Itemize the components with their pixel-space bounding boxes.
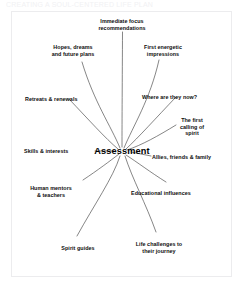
spoke-human-mentors (83, 154, 119, 180)
spoke-first-energetic (124, 60, 159, 148)
spoke-retreats-renewals (69, 99, 118, 149)
node-first-energetic: First energetic impressions (132, 44, 194, 57)
node-educational-influences: Educational influences (131, 190, 217, 197)
node-skills-interests: Skills & interests (24, 148, 94, 155)
node-hopes-dreams: Hopes, dreams and future plans (38, 44, 108, 57)
node-spirit-guides: Spirit guides (48, 245, 108, 252)
node-allies-friends-family: Allies, friends & family (152, 154, 232, 161)
node-life-challenges: Life challenges to their journey (122, 241, 196, 254)
node-first-calling-spirit: The first calling of spirit (168, 117, 216, 137)
node-immediate-focus: Immediate focus recommendations (85, 18, 159, 31)
node-human-mentors: Human mentors & teachers (17, 185, 85, 198)
node-where-are-they-now: Where are they now? (142, 94, 226, 101)
node-retreats-renewals: Retreats & renewals (25, 96, 105, 103)
diagram-page: CREATING A SOUL-CENTERED LIFE PLAN Asses… (0, 0, 245, 287)
spoke-immediate-focus (122, 32, 123, 147)
hub-label-assessment: Assessment (94, 146, 150, 156)
spoke-hopes-dreams (82, 62, 120, 148)
